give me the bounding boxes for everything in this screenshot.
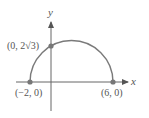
y-axis-label: y — [47, 6, 53, 18]
point-label-6-0: (6, 0) — [101, 87, 123, 99]
semicircle-diagram: x y (−2, 0) (6, 0) (0, 2√3) — [0, 0, 149, 118]
graph-canvas: x y (−2, 0) (6, 0) (0, 2√3) — [0, 0, 149, 118]
point-label-neg2-0: (−2, 0) — [15, 87, 42, 99]
point-6-0 — [110, 79, 115, 84]
point-neg2-0 — [27, 79, 32, 84]
point-label-0-2root3: (0, 2√3) — [7, 40, 39, 52]
point-0-2root3 — [48, 43, 53, 48]
semicircle-curve — [30, 40, 113, 82]
x-axis-label: x — [130, 75, 136, 87]
